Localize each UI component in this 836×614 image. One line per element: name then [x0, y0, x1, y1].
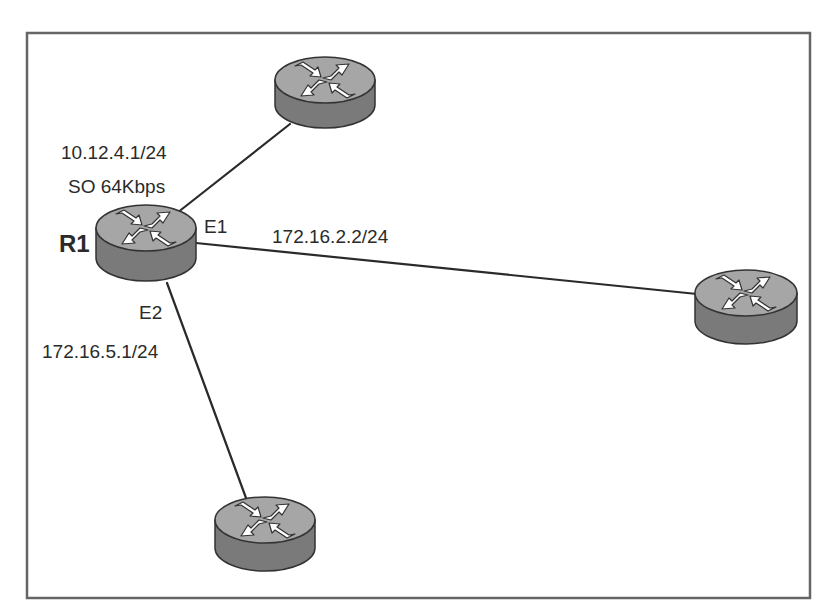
e2-interface-label: E2	[139, 302, 162, 323]
router-bottom[interactable]	[215, 497, 315, 571]
link-r1-top	[177, 124, 290, 213]
link-r1-bottom	[167, 283, 246, 498]
router-right[interactable]	[695, 270, 797, 344]
e1-interface-label: E1	[204, 216, 227, 237]
e2-ip-label: 172.16.5.1/24	[42, 341, 159, 362]
links	[167, 124, 697, 498]
s0-speed-label: SO 64Kbps	[68, 176, 165, 197]
network-diagram: R1 10.12.4.1/24 SO 64Kbps E1 172.16.2.2/…	[0, 0, 836, 614]
e1-ip-label: 172.16.2.2/24	[272, 226, 389, 247]
router-r1[interactable]	[96, 205, 196, 281]
link-r1-right	[196, 243, 697, 294]
router-top[interactable]	[275, 57, 375, 128]
router-r1-name: R1	[59, 230, 90, 257]
s0-ip-label: 10.12.4.1/24	[61, 142, 167, 163]
